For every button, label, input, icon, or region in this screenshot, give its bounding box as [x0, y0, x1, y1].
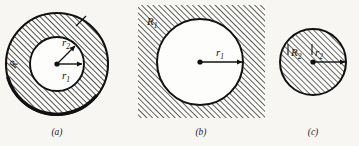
- panel-b-caption: (b): [195, 127, 206, 138]
- figure-canvas: R r2 r1 (a) R1 r1 (b): [0, 0, 359, 146]
- panel-c-caption: (c): [308, 127, 319, 138]
- physics-figure-three-panels: R r2 r1 (a) R1 r1 (b): [0, 0, 359, 146]
